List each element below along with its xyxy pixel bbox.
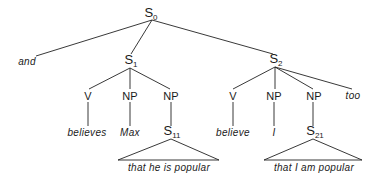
node-s1-np2: NP — [163, 91, 178, 102]
edge-s2-np2 — [275, 67, 313, 89]
node-s2-np2: NP — [306, 91, 321, 102]
triangle-s11 — [118, 139, 219, 160]
node-too: too — [346, 91, 361, 101]
node-s0: S0 — [144, 6, 157, 22]
node-s11: S11 — [164, 124, 181, 140]
leaf-i: I — [272, 128, 275, 138]
edge-s0-s2 — [152, 20, 273, 54]
node-s1-np1: NP — [122, 91, 137, 102]
node-s1-v: V — [84, 91, 91, 102]
edge-s1-v — [89, 68, 130, 89]
s21-clause-text: that I am popular — [274, 163, 354, 173]
edge-s1-np2 — [130, 68, 170, 89]
tree-edges — [0, 0, 379, 179]
edge-s0-and — [36, 20, 152, 56]
leaf-believe: believe — [216, 128, 250, 138]
leaf-believes: believes — [67, 128, 106, 138]
node-and: and — [18, 57, 36, 67]
node-s21: S21 — [306, 124, 324, 140]
edge-s2-too — [275, 67, 352, 89]
node-s1: S1 — [124, 53, 137, 69]
edge-s2-v — [233, 67, 275, 89]
node-s2: S2 — [269, 52, 282, 68]
node-s2-v: V — [229, 91, 236, 102]
leaf-max: Max — [120, 128, 140, 138]
triangle-s21 — [264, 139, 362, 160]
node-s2-np1: NP — [266, 91, 281, 102]
s11-clause-text: that he is popular — [128, 163, 210, 173]
